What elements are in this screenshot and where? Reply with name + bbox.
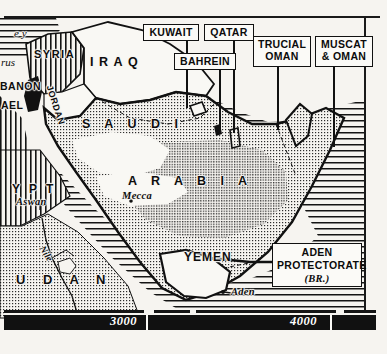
callout-qatar[interactable]: QATAR [204,24,254,41]
scale-label-3000: 3000 [110,314,137,329]
callout-kuwait[interactable]: KUWAIT [143,24,199,41]
callout-bahrein-line1: BAHREIN [179,56,231,68]
leader-line-trucial-oman [277,66,279,130]
scale-divider-1 [146,315,148,330]
scale-label-4000: 4000 [290,314,317,329]
callout-trucial-oman[interactable]: TRUCIAL OMAN [253,36,311,67]
callout-muscat-oman[interactable]: MUSCAT & OMAN [315,36,373,67]
map-scale-bar [4,315,376,330]
callout-aden-protectorate[interactable]: ADEN PROTECTORATE (BR.) [272,243,362,287]
callout-bahrein[interactable]: BAHREIN [174,53,236,70]
leader-line-muscat-oman [333,66,335,147]
callout-trucial-oman-line1: TRUCIAL [258,39,306,51]
callout-trucial-oman-line2: OMAN [258,51,306,63]
callout-aden-line2: PROTECTORATE [277,259,357,272]
frame-line-top [4,16,380,18]
callout-qatar-line1: QATAR [209,27,249,39]
map-canvas: e y rus BANON AEL YPT U D A N SYRIA IRAQ… [0,0,387,354]
callout-kuwait-line1: KUWAIT [148,27,194,39]
callout-aden-line1: ADEN [277,246,357,259]
callout-muscat-oman-line1: MUSCAT [320,39,368,51]
callout-muscat-oman-line2: & OMAN [320,51,368,63]
leader-line-kuwait [186,41,188,108]
leader-line-bahrein [219,70,221,130]
callout-aden-line3: (BR.) [277,272,357,285]
scale-divider-2 [330,315,332,330]
